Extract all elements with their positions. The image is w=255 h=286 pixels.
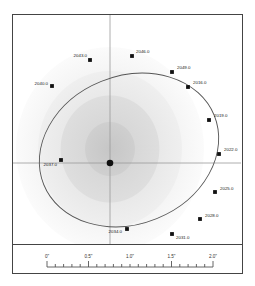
epoch-label: 2031.0 <box>176 235 190 240</box>
epoch-label: 2025.0 <box>220 186 234 191</box>
epoch-label: 2034.0 <box>109 229 123 234</box>
scale-bar-svg: 0"0.5"1.0"1.5"2.0" <box>13 245 241 273</box>
scale-tick-label: 0" <box>45 254 50 259</box>
scale-tick-group: 0"0.5"1.0"1.5"2.0" <box>45 254 217 267</box>
epoch-label: 2049.0 <box>177 65 191 70</box>
epoch-label: 2043.0 <box>74 53 88 58</box>
scale-bar-panel: 0"0.5"1.0"1.5"2.0" <box>13 245 242 273</box>
epoch-marker <box>59 158 63 162</box>
epoch-marker <box>170 70 174 74</box>
scale-tick-label: 0.5" <box>84 254 92 259</box>
epoch-marker <box>198 217 202 221</box>
epoch-marker <box>170 232 174 236</box>
orbit-plot-panel: 2016.02019.02022.02025.02028.02031.02034… <box>13 15 242 244</box>
epoch-marker <box>130 54 134 58</box>
epoch-label: 2040.0 <box>35 81 49 86</box>
epoch-label: 2046.0 <box>136 49 150 54</box>
epoch-label: 2022.0 <box>224 147 238 152</box>
epoch-marker <box>207 118 211 122</box>
primary-star-marker <box>107 160 114 167</box>
epoch-marker <box>213 190 217 194</box>
orbit-svg: 2016.02019.02022.02025.02028.02031.02034… <box>13 15 241 244</box>
epoch-label: 2019.0 <box>214 113 228 118</box>
epoch-label: 2028.0 <box>205 213 219 218</box>
scale-tick-label: 2.0" <box>209 254 217 259</box>
epoch-marker <box>88 58 92 62</box>
epoch-marker <box>125 227 129 231</box>
epoch-label: 2016.0 <box>193 80 207 85</box>
figure-frame: 2016.02019.02022.02025.02028.02031.02034… <box>12 14 243 274</box>
epoch-marker <box>217 152 221 156</box>
scale-tick-label: 1.0" <box>126 254 134 259</box>
epoch-marker <box>186 85 190 89</box>
scale-tick-label: 1.5" <box>167 254 175 259</box>
epoch-marker <box>50 84 54 88</box>
epoch-label: 2037.0 <box>44 162 58 167</box>
orbit-figure: 2016.02019.02022.02025.02028.02031.02034… <box>0 0 255 286</box>
